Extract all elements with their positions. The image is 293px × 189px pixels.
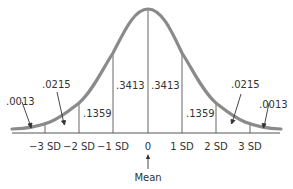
bell-curve [12,9,281,129]
tick-label-p3: 3 SD [238,141,262,152]
label-sd2-left: .1359 [83,108,112,119]
label-sd2-right: .1359 [186,108,215,119]
tick-label-m2: −2 SD [63,141,95,152]
sd-divider-lines [45,9,250,133]
tick-label-p2: 2 SD [204,141,228,152]
diagram-canvas: .0013 .0215 .1359 .3413 .3413 .1359 .021… [0,0,293,189]
tick-label-p1: 1 SD [170,141,194,152]
mean-arrowhead-icon [146,154,150,159]
label-arrows [22,92,269,128]
tick-label-m3: −3 SD [29,141,61,152]
label-sd3-right: .0215 [231,79,260,90]
normal-distribution-diagram: .0013 .0215 .1359 .3413 .3413 .1359 .021… [0,0,293,189]
label-sd1-right: .3413 [151,80,180,91]
tick-label-m1: −1 SD [97,141,129,152]
label-sd1-left: .3413 [116,80,145,91]
mean-label: Mean [134,172,161,183]
label-tail-right: .0013 [259,99,288,110]
tick-label-0: 0 [145,141,151,152]
label-tail-left: .0013 [6,96,35,107]
label-sd3-left: .0215 [42,79,71,90]
